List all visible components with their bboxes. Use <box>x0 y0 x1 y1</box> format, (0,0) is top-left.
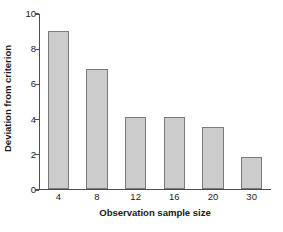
y-axis-tick-label: 10 <box>16 9 36 19</box>
y-axis-tick-label: 8 <box>16 44 36 54</box>
bar <box>164 117 185 189</box>
bar <box>48 31 69 189</box>
x-axis-tick-label: 12 <box>116 192 155 202</box>
x-axis-tick-label: 16 <box>155 192 194 202</box>
x-axis-tick-label: 8 <box>78 192 117 202</box>
x-axis-tick-labels: 4812162030 <box>39 192 271 206</box>
bar-chart: Deviation from criterion 0246810 4812162… <box>0 0 283 232</box>
bar <box>86 69 107 190</box>
y-axis-tick-label: 0 <box>16 185 36 195</box>
bars-group <box>39 14 271 190</box>
bar <box>202 127 223 189</box>
y-axis-tick-label: 6 <box>16 79 36 89</box>
x-axis-tick-label: 30 <box>232 192 271 202</box>
bar <box>241 157 262 190</box>
x-axis-title: Observation sample size <box>39 207 271 218</box>
bar <box>125 117 146 189</box>
plot-area <box>39 14 271 190</box>
y-axis-tick-labels: 0246810 <box>14 0 36 232</box>
y-axis-tick-label: 2 <box>16 150 36 160</box>
x-axis-tick-label: 4 <box>39 192 78 202</box>
y-axis-title-text: Deviation from criterion <box>3 44 14 151</box>
y-axis-tick-label: 4 <box>16 115 36 125</box>
x-axis-tick-label: 20 <box>194 192 233 202</box>
